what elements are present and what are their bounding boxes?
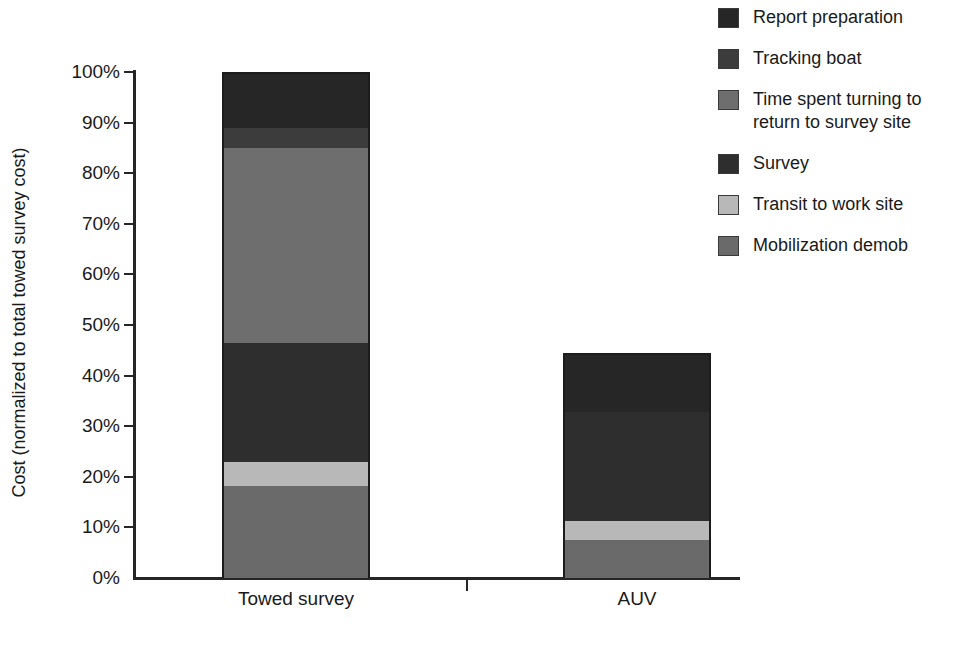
legend-swatch-icon <box>718 195 739 215</box>
y-axis-tick-label: 20% <box>48 467 120 486</box>
legend-item: Tracking boat <box>718 47 976 70</box>
y-axis-tick-label: 40% <box>48 366 120 385</box>
legend-item: Transit to work site <box>718 193 976 216</box>
legend-item-label: Time spent turning to return to survey s… <box>753 88 958 134</box>
y-axis-tick-label: 60% <box>48 264 120 283</box>
y-axis-tick-label: 10% <box>48 517 120 536</box>
legend-item-label: Report preparation <box>753 6 903 29</box>
chart-page: Cost (normalized to total towed survey c… <box>0 0 979 645</box>
legend-swatch-icon <box>718 8 739 28</box>
y-axis-tick-mark <box>124 526 134 528</box>
stacked-bar <box>563 353 711 578</box>
bar-segment <box>224 128 368 148</box>
y-axis-tick-mark <box>124 223 134 225</box>
y-axis-tick-mark <box>124 273 134 275</box>
legend-item: Report preparation <box>718 6 976 29</box>
y-axis-tick-mark <box>124 324 134 326</box>
legend-item: Time spent turning to return to survey s… <box>718 88 976 134</box>
y-axis-tick-label: 90% <box>48 113 120 132</box>
bar-top-edge <box>224 72 368 74</box>
y-axis-tick-label: 50% <box>48 315 120 334</box>
bar-top-edge <box>565 353 709 355</box>
y-axis-tick-label: 70% <box>48 214 120 233</box>
y-axis-tick-label: 30% <box>48 416 120 435</box>
bar-segment <box>224 486 368 578</box>
legend-swatch-icon <box>718 154 739 174</box>
y-axis-tick-label: 100% <box>48 62 120 81</box>
bar-segment <box>565 353 709 412</box>
legend-item-label: Survey <box>753 152 809 175</box>
y-axis-tick-label: 80% <box>48 163 120 182</box>
y-axis-title: Cost (normalized to total towed survey c… <box>0 0 38 645</box>
bar-segment <box>224 148 368 343</box>
legend-swatch-icon <box>718 90 739 110</box>
bar-segment <box>565 540 709 578</box>
legend-item: Mobilization demob <box>718 234 976 257</box>
bar-segment <box>565 521 709 540</box>
y-axis-tick-mark <box>124 122 134 124</box>
legend-item: Survey <box>718 152 976 175</box>
y-axis-tick-mark <box>124 375 134 377</box>
bar-segment <box>224 72 368 128</box>
y-axis-tick-label: 0% <box>48 568 120 587</box>
y-axis-tick-mark <box>124 425 134 427</box>
chart-legend: Report preparationTracking boatTime spen… <box>718 6 976 275</box>
y-axis-tick-labels: 0%10%20%30%40%50%60%70%80%90%100% <box>40 0 120 645</box>
bar-segment <box>224 343 368 462</box>
legend-swatch-icon <box>718 49 739 69</box>
legend-item-label: Mobilization demob <box>753 234 908 257</box>
y-axis-tick-mark <box>124 476 134 478</box>
y-axis-tick-mark <box>124 172 134 174</box>
legend-item-label: Transit to work site <box>753 193 903 216</box>
bar-segment <box>224 462 368 486</box>
plot-area: Cost (normalized to total towed survey c… <box>0 0 740 645</box>
bar-segment <box>565 412 709 521</box>
y-axis-tick-mark <box>124 71 134 73</box>
legend-swatch-icon <box>718 236 739 256</box>
x-axis-category-label: AUV <box>503 588 771 610</box>
stacked-bar <box>222 72 370 578</box>
x-axis-category-label: Towed survey <box>162 588 430 610</box>
x-axis-tick-mid <box>466 580 468 591</box>
legend-item-label: Tracking boat <box>753 47 861 70</box>
